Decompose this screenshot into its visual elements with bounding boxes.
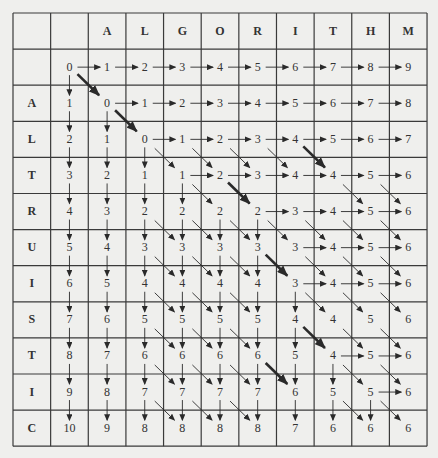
table-cell-value: 7 [276, 410, 314, 446]
table-cell-value: 5 [201, 302, 239, 338]
row-header: I [13, 266, 51, 302]
table-cell-value: 3 [164, 230, 202, 266]
table-cell-value: 6 [276, 374, 314, 410]
table-cell-value: 4 [88, 230, 126, 266]
row-header: T [13, 338, 51, 374]
table-cell-value: 6 [389, 194, 427, 230]
table-cell-value: 3 [276, 194, 314, 230]
column-header [13, 13, 51, 49]
column-header: O [201, 13, 239, 49]
table-cell-value: 5 [314, 121, 352, 157]
table-cell-value: 5 [126, 302, 164, 338]
table-cell-value: 2 [239, 194, 277, 230]
table-cell-value: 1 [164, 157, 202, 193]
table-cell-value: 3 [126, 230, 164, 266]
table-cell-value: 6 [389, 374, 427, 410]
table-cell-value: 8 [51, 338, 89, 374]
table-cell-value: 5 [352, 194, 390, 230]
table-cell-value: 6 [389, 302, 427, 338]
table-cell-value: 4 [314, 230, 352, 266]
table-cell-value: 3 [201, 85, 239, 121]
row-header [13, 49, 51, 85]
table-cell-value: 3 [164, 49, 202, 85]
column-header [51, 13, 89, 49]
table-cell-value: 2 [51, 121, 89, 157]
table-cell-value: 6 [239, 338, 277, 374]
table-cell-value: 1 [88, 121, 126, 157]
table-cell-value: 5 [352, 338, 390, 374]
table-cell-value: 5 [352, 374, 390, 410]
table-cell-value: 4 [239, 266, 277, 302]
table-cell-value: 8 [389, 85, 427, 121]
table-cell-value: 7 [201, 374, 239, 410]
table-cell-value: 4 [239, 85, 277, 121]
table-cell-value: 6 [389, 157, 427, 193]
table-cell-value: 2 [88, 157, 126, 193]
table-cell-value: 8 [88, 374, 126, 410]
table-cell-value: 6 [126, 338, 164, 374]
table-cell-value: 2 [201, 121, 239, 157]
table-cell-value: 2 [201, 194, 239, 230]
table-cell-value: 2 [164, 85, 202, 121]
table-cell-value: 4 [164, 266, 202, 302]
table-cell-value: 4 [126, 266, 164, 302]
table-cell-value: 2 [201, 157, 239, 193]
table-cell-value: 1 [126, 85, 164, 121]
row-header: L [13, 121, 51, 157]
table-cell-value: 4 [51, 194, 89, 230]
table-cell-value: 4 [314, 302, 352, 338]
row-header: U [13, 230, 51, 266]
table-cell-value: 3 [276, 266, 314, 302]
row-header: S [13, 302, 51, 338]
table-cell-value: 5 [352, 266, 390, 302]
table-cell-value: 4 [201, 49, 239, 85]
table-cell-value: 5 [164, 302, 202, 338]
edit-distance-table: ALGORITHMALTRUISTIC012345678910123456782… [0, 0, 438, 458]
table-cell-value: 6 [352, 410, 390, 446]
table-cell-value: 6 [389, 410, 427, 446]
table-cell-value: 7 [88, 338, 126, 374]
table-cell-value: 5 [314, 374, 352, 410]
row-header: I [13, 374, 51, 410]
table-cell-value: 6 [51, 266, 89, 302]
table-cell-value: 7 [352, 85, 390, 121]
table-cell-value: 6 [314, 410, 352, 446]
table-cell-value: 4 [276, 157, 314, 193]
table-cell-value: 1 [88, 49, 126, 85]
column-header: L [126, 13, 164, 49]
table-cell-value: 5 [276, 85, 314, 121]
table-cell-value: 2 [164, 194, 202, 230]
table-cell-value: 6 [389, 338, 427, 374]
table-cell-value: 7 [239, 374, 277, 410]
table-cell-value: 2 [126, 49, 164, 85]
column-header: I [276, 13, 314, 49]
table-cell-value: 4 [201, 266, 239, 302]
table-cell-value: 9 [88, 410, 126, 446]
table-cell-value: 0 [51, 49, 89, 85]
table-cell-value: 1 [126, 157, 164, 193]
column-header: A [88, 13, 126, 49]
table-cell-value: 1 [164, 121, 202, 157]
table-cell-value: 9 [389, 49, 427, 85]
table-cell-value: 3 [239, 157, 277, 193]
table-cell-value: 8 [239, 410, 277, 446]
table-cell-value: 6 [352, 121, 390, 157]
table-cell-value: 6 [276, 49, 314, 85]
column-header: G [164, 13, 202, 49]
table-cell-value: 6 [314, 85, 352, 121]
table-cell-value: 3 [276, 230, 314, 266]
table-cell-value: 8 [352, 49, 390, 85]
table-cell-value: 0 [126, 121, 164, 157]
table-cell-value: 10 [51, 410, 89, 446]
table-cell-value: 0 [88, 85, 126, 121]
table-cell-value: 3 [201, 230, 239, 266]
table-cell-value: 6 [389, 230, 427, 266]
table-cell-value: 5 [51, 230, 89, 266]
table-cell-value: 9 [51, 374, 89, 410]
table-cell-value: 5 [239, 49, 277, 85]
row-header: T [13, 157, 51, 193]
table-cell-value: 6 [201, 338, 239, 374]
row-header: A [13, 85, 51, 121]
table-cell-value: 2 [126, 194, 164, 230]
table-cell-value: 5 [352, 157, 390, 193]
